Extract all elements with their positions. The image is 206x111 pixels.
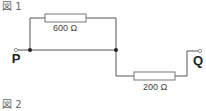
terminal-q-label: Q xyxy=(193,53,203,68)
junction-node-right xyxy=(114,48,118,52)
resistor-200-label: 200 Ω xyxy=(143,82,168,92)
resistor-600-label: 600 Ω xyxy=(53,23,78,33)
circuit-diagram: 600 Ω 200 Ω P Q xyxy=(0,0,206,111)
resistor-600-ohm xyxy=(45,14,86,22)
junction-node-left xyxy=(28,48,32,52)
terminal-p-label: P xyxy=(12,51,21,66)
resistor-200-ohm xyxy=(134,72,175,80)
figure-2-label: 図 2 xyxy=(2,100,22,110)
wires xyxy=(17,18,199,76)
